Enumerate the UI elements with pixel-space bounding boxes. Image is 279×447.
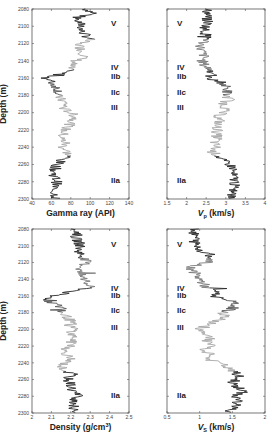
unit-label: V bbox=[177, 19, 183, 28]
y-tick-label: 2120 bbox=[18, 259, 29, 265]
y-tick-label: 2260 bbox=[18, 376, 29, 382]
unit-label: IIa bbox=[111, 176, 120, 185]
x-tick-label: 40 bbox=[29, 200, 35, 206]
y-tick-label: 2140 bbox=[18, 58, 29, 64]
x-tick-label: 1.5 bbox=[164, 200, 171, 206]
gamma-ray-panel: 4060801001201402080210021202140216021802… bbox=[0, 0, 140, 225]
vs-panel: 0.511.52VIVIIbIIcIIIIIaVS (km/s) bbox=[140, 222, 279, 447]
x-axis-label: Vp (km/s) bbox=[198, 208, 235, 219]
y-tick-label: 2300 bbox=[18, 196, 29, 202]
unit-label: IIc bbox=[111, 306, 120, 315]
x-tick-label: 2.5 bbox=[126, 414, 133, 420]
unit-label: IIb bbox=[177, 291, 186, 300]
x-tick-label: 0.5 bbox=[164, 414, 171, 420]
unit-label: IV bbox=[177, 63, 185, 72]
x-tick-label: 3 bbox=[224, 200, 227, 206]
unit-label: IIa bbox=[177, 176, 186, 185]
vp-chart: 1.522.533.54VIVIIbIIcIIIIIaVp (km/s) bbox=[140, 0, 279, 225]
x-axis-label: VS (km/s) bbox=[198, 422, 235, 433]
unit-label: V bbox=[111, 240, 117, 249]
y-axis-label: Depth (m) bbox=[0, 301, 8, 341]
x-tick-label: 1.5 bbox=[229, 414, 236, 420]
unit-label: III bbox=[111, 323, 118, 332]
unit-label: IIc bbox=[177, 306, 186, 315]
y-tick-label: 2220 bbox=[18, 127, 29, 133]
y-axis-label: Depth (m) bbox=[0, 84, 8, 124]
y-tick-label: 2260 bbox=[18, 161, 29, 167]
unit-label: IIb bbox=[111, 72, 120, 81]
density-panel: 22.12.22.32.42.5208021002120214021602180… bbox=[0, 222, 140, 447]
y-tick-label: 2220 bbox=[18, 343, 29, 349]
x-tick-label: 2 bbox=[31, 414, 34, 420]
vp-panel: 1.522.533.54VIVIIbIIcIIIIIaVp (km/s) bbox=[140, 0, 279, 225]
y-tick-label: 2280 bbox=[18, 393, 29, 399]
y-tick-label: 2280 bbox=[18, 179, 29, 185]
x-tick-label: 140 bbox=[125, 200, 134, 206]
x-tick-label: 2.2 bbox=[67, 414, 74, 420]
unit-label: IIc bbox=[111, 88, 120, 97]
x-tick-label: 2 bbox=[264, 414, 267, 420]
unit-label: III bbox=[111, 103, 118, 112]
x-tick-label: 2.1 bbox=[48, 414, 55, 420]
y-tick-label: 2080 bbox=[18, 226, 29, 232]
x-tick-label: 120 bbox=[105, 200, 114, 206]
x-tick-label: 60 bbox=[49, 200, 55, 206]
unit-label: V bbox=[111, 19, 117, 28]
unit-label: III bbox=[177, 103, 184, 112]
x-tick-label: 1 bbox=[198, 414, 201, 420]
density-chart: 22.12.22.32.42.5208021002120214021602180… bbox=[0, 222, 140, 447]
y-tick-label: 2240 bbox=[18, 360, 29, 366]
vs-chart: 0.511.52VIVIIbIIcIIIIIaVS (km/s) bbox=[140, 222, 279, 447]
y-tick-label: 2200 bbox=[18, 326, 29, 332]
x-tick-label: 80 bbox=[68, 200, 74, 206]
x-tick-label: 2 bbox=[185, 200, 188, 206]
x-tick-label: 2.5 bbox=[203, 200, 210, 206]
y-tick-label: 2180 bbox=[18, 92, 29, 98]
y-tick-label: 2160 bbox=[18, 75, 29, 81]
x-tick-label: 4 bbox=[264, 200, 267, 206]
gamma-ray-chart: 4060801001201402080210021202140216021802… bbox=[0, 0, 140, 225]
y-tick-label: 2080 bbox=[18, 6, 29, 12]
unit-label: IIc bbox=[177, 88, 186, 97]
y-tick-label: 2180 bbox=[18, 309, 29, 315]
x-tick-label: 100 bbox=[86, 200, 95, 206]
unit-label: V bbox=[177, 240, 183, 249]
x-tick-label: 3.5 bbox=[242, 200, 249, 206]
y-tick-label: 2240 bbox=[18, 144, 29, 150]
y-tick-label: 2300 bbox=[18, 410, 29, 416]
x-tick-label: 2.4 bbox=[106, 414, 113, 420]
x-tick-label: 2.3 bbox=[87, 414, 94, 420]
unit-label: IIb bbox=[177, 72, 186, 81]
x-axis-label: Gamma ray (API) bbox=[46, 208, 115, 218]
y-tick-label: 2200 bbox=[18, 109, 29, 115]
y-tick-label: 2140 bbox=[18, 276, 29, 282]
y-tick-label: 2120 bbox=[18, 40, 29, 46]
y-tick-label: 2160 bbox=[18, 293, 29, 299]
y-tick-label: 2100 bbox=[18, 23, 29, 29]
unit-label: IIb bbox=[111, 291, 120, 300]
unit-label: III bbox=[177, 323, 184, 332]
unit-label: IV bbox=[111, 63, 119, 72]
x-axis-label: Density (g/cm3) bbox=[50, 422, 112, 432]
unit-label: IIa bbox=[111, 391, 120, 400]
unit-label: IIa bbox=[177, 391, 186, 400]
y-tick-label: 2100 bbox=[18, 243, 29, 249]
